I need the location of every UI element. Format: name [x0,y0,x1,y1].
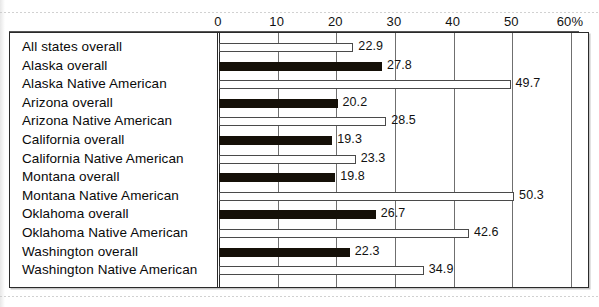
plot-area: 22.927.849.720.228.519.323.319.850.326.7… [218,33,588,287]
bar-value-label: 50.3 [519,188,544,202]
bar-hollow [219,155,356,164]
category-label: Montana overall [22,169,120,184]
category-label: Oklahoma Native American [22,225,188,240]
bar-value-label: 28.5 [391,113,416,127]
bar-value-label: 27.8 [387,58,412,72]
category-label: Oklahoma overall [22,206,129,221]
bar-value-label: 19.8 [340,169,365,183]
bar-value-label: 20.2 [343,95,368,109]
scan-artifact-line-top [0,12,599,13]
bar-value-label: 19.3 [337,132,362,146]
category-label: Arizona overall [22,95,113,110]
gridline-60 [571,33,572,287]
x-axis-tick-0: 0 [214,14,221,29]
bar-hollow [219,229,469,238]
bar-chart-figure: 22.927.849.720.228.519.323.319.850.326.7… [9,32,589,288]
bar-value-label: 34.9 [429,262,454,276]
category-label: Alaska overall [22,58,107,73]
x-axis-tick-50: 50 [504,14,519,29]
x-axis-tick-30: 30 [387,14,402,29]
x-axis-tick-10: 10 [269,14,284,29]
bar-solid [219,248,350,257]
category-label: Washington overall [22,244,138,259]
category-label: Arizona Native American [22,113,172,128]
x-axis-tick-20: 20 [328,14,343,29]
category-label: Alaska Native American [22,76,167,91]
bar-value-label: 22.3 [355,244,380,258]
bar-solid [219,173,335,182]
bar-value-label: 26.7 [381,206,406,220]
category-label: Washington Native American [22,262,197,277]
bar-hollow [219,192,514,201]
gridline-40 [454,33,455,287]
x-axis-tick-60: 60% [557,14,584,29]
scan-artifact-line-bottom [0,296,599,297]
x-axis-tick-40: 40 [445,14,460,29]
bar-value-label: 22.9 [358,39,383,53]
category-label: California overall [22,132,124,147]
bar-hollow [219,117,386,126]
bar-solid [219,62,382,71]
scan-edge-artifact [0,0,5,307]
bar-value-label: 23.3 [361,151,386,165]
category-label: Montana Native American [22,188,179,203]
x-axis-tick-labels: 0102030405060% [0,14,599,32]
bar-hollow [219,43,353,52]
gridline-50 [512,33,513,287]
category-label: All states overall [22,39,122,54]
bar-hollow [219,80,511,89]
bar-hollow [219,266,424,275]
category-label: California Native American [22,151,184,166]
bar-value-label: 49.7 [516,76,541,90]
bar-solid [219,99,338,108]
bar-solid [219,210,376,219]
bar-solid [219,136,332,145]
bar-value-label: 42.6 [474,225,499,239]
